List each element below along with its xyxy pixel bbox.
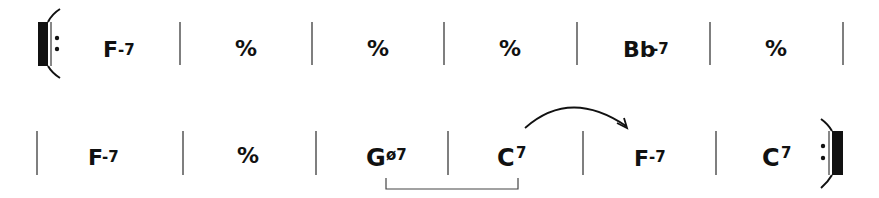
chord-root: C [497, 144, 515, 172]
system-2: F -7 % G ø7 C 7 F -7 C 7 [37, 107, 843, 189]
simile-mark: % [367, 36, 389, 61]
chord-root: F [634, 146, 649, 171]
chord-root: F [88, 145, 103, 170]
simile-mark: % [765, 36, 787, 61]
chord-extension: -7 [649, 148, 666, 166]
chord-extension: 7 [781, 144, 791, 162]
system-1: F -7 % % % Bb -7 % [38, 9, 843, 78]
chord-extension: 7 [516, 144, 526, 162]
repeat-start-icon [38, 9, 60, 78]
chord-root: C [762, 144, 780, 172]
chord-root: F [103, 37, 118, 62]
chord-extension: -7 [652, 40, 669, 58]
chord-root: G [366, 144, 386, 172]
lead-sheet: F -7 % % % Bb -7 % F -7 % G ø7 C 7 F -7 … [0, 0, 879, 198]
simile-mark: % [235, 36, 257, 61]
simile-mark: % [499, 36, 521, 61]
chord-extension: ø7 [386, 146, 407, 164]
chord-extension: -7 [118, 41, 135, 59]
ii-v-bracket [386, 178, 518, 189]
resolution-arrow-icon [525, 107, 627, 128]
chord-root: Bb [623, 37, 656, 62]
chord-extension: -7 [102, 148, 119, 166]
repeat-end-icon [821, 119, 843, 188]
simile-mark: % [237, 143, 259, 168]
